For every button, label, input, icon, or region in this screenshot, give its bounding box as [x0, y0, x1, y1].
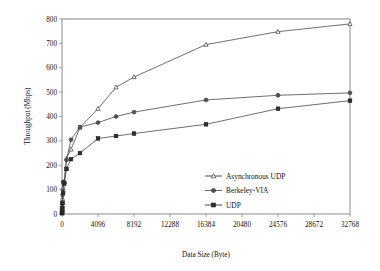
marker-1-8	[69, 138, 73, 142]
y-tick-label-100: 100	[46, 186, 57, 194]
marker-1-10	[96, 121, 100, 125]
marker-1-12	[132, 110, 136, 114]
x-tick-label-0: 0	[60, 221, 64, 229]
throughput-vs-data-size-chart: 0100200300400500600700800 04096819212288…	[0, 0, 380, 271]
x-tick-label-12288: 12288	[161, 221, 179, 229]
marker-1-13	[204, 98, 208, 102]
marker-2-3	[60, 206, 64, 210]
marker-2-7	[65, 167, 69, 171]
y-tick-label-500: 500	[46, 89, 57, 97]
marker-2-13	[204, 122, 208, 126]
marker-2-4	[61, 201, 65, 205]
y-tick-label-800: 800	[46, 16, 57, 24]
marker-2-8	[69, 157, 73, 161]
x-tick-label-24576: 24576	[269, 221, 287, 229]
x-tick-label-4096: 4096	[91, 221, 106, 229]
marker-2-15	[348, 99, 352, 103]
marker-1-7	[65, 158, 69, 162]
marker-1-14	[276, 93, 280, 97]
y-tick-label-0: 0	[53, 211, 57, 219]
y-tick-label-300: 300	[46, 137, 57, 145]
legend-label-1: Berkeley-VIA	[226, 186, 269, 195]
marker-2-11	[114, 134, 118, 138]
x-tick-label-28672: 28672	[305, 221, 323, 229]
marker-legend-2	[212, 203, 216, 207]
marker-2-9	[78, 151, 82, 155]
plot-area-frame	[62, 19, 350, 214]
y-tick-label-400: 400	[46, 113, 57, 121]
marker-2-10	[96, 137, 100, 141]
legend-label-2: UDP	[226, 201, 241, 210]
marker-1-15	[348, 91, 352, 95]
marker-2-14	[276, 107, 280, 111]
marker-2-6	[62, 182, 66, 186]
x-axis-title: Data Size (Byte)	[182, 251, 231, 259]
marker-legend-1	[211, 188, 215, 192]
y-tick-label-200: 200	[46, 162, 57, 170]
x-tick-label-8192: 8192	[127, 221, 142, 229]
y-tick-label-600: 600	[46, 64, 57, 72]
x-tick-label-16384: 16384	[197, 221, 215, 229]
marker-1-11	[114, 115, 118, 119]
marker-1-9	[78, 125, 82, 129]
marker-2-5	[61, 191, 65, 195]
y-axis-title: Throughput (Mbps)	[24, 87, 32, 145]
x-tick-label-20480: 20480	[233, 221, 251, 229]
chart-figure: 0100200300400500600700800 04096819212288…	[0, 0, 380, 271]
marker-2-12	[132, 132, 136, 136]
y-tick-label-700: 700	[46, 40, 57, 48]
x-tick-label-32768: 32768	[341, 221, 359, 229]
legend-label-0: Asynchronous UDP	[226, 172, 285, 181]
